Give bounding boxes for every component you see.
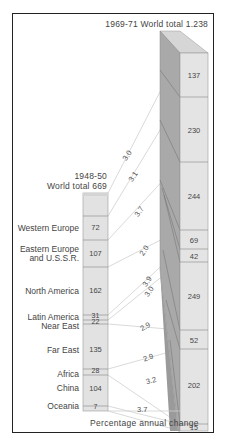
left-value-oceania: 7 bbox=[83, 403, 108, 410]
right-value-western-europe: 137 bbox=[180, 71, 208, 80]
rate-oceania: 3.7 bbox=[137, 405, 147, 414]
left-value-africa: 28 bbox=[83, 367, 108, 374]
left-value-eastern-europe: 107 bbox=[83, 249, 108, 258]
left-value-china: 104 bbox=[83, 384, 108, 393]
right-value-latin-america: 69 bbox=[180, 236, 208, 245]
region-label-near-east: Near East bbox=[41, 322, 79, 331]
left-bar-header-total: World total 669 bbox=[47, 181, 107, 191]
region-label-ussr: and U.S.S.R. bbox=[29, 254, 79, 263]
left-value-near-east: 22 bbox=[83, 318, 108, 325]
region-label-oceania: Oceania bbox=[47, 402, 79, 411]
right-value-far-east: 249 bbox=[180, 292, 208, 301]
right-value-near-east: 42 bbox=[180, 252, 208, 261]
region-label-far-east: Far East bbox=[47, 346, 79, 355]
region-label-africa: Africa bbox=[57, 370, 79, 379]
right-value-north-america: 244 bbox=[180, 192, 208, 201]
region-label-north-america: North America bbox=[25, 287, 79, 296]
region-label-china: China bbox=[57, 384, 79, 393]
right-value-africa: 52 bbox=[180, 336, 208, 345]
left-value-north-america: 162 bbox=[83, 286, 108, 295]
left-bar-header-year: 1948-50 bbox=[74, 171, 107, 181]
x-axis-label: Percentage annual change bbox=[90, 418, 199, 428]
right-value-eastern-europe: 230 bbox=[180, 126, 208, 135]
left-value-western-europe: 72 bbox=[83, 223, 108, 232]
region-label-western-europe: Western Europe bbox=[18, 224, 79, 233]
right-bar bbox=[160, 31, 208, 431]
left-value-far-east: 135 bbox=[83, 345, 108, 354]
right-bar-header: 1969-71 World total 1.238 bbox=[105, 19, 208, 29]
right-value-china: 202 bbox=[180, 381, 208, 390]
